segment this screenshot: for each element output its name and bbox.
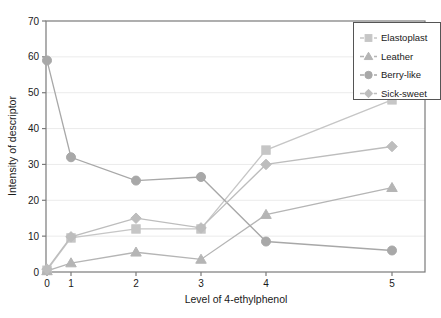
marker-circle (132, 176, 141, 185)
chart-legend[interactable]: ElastoplastLeatherBerry-likeSick-sweet (354, 23, 441, 100)
y-tick-label: 20 (28, 195, 40, 206)
marker-circle (43, 56, 52, 65)
y-tick-label: 10 (28, 231, 40, 242)
legend-label: Elastoplast (381, 32, 428, 43)
y-tick-label: 70 (28, 16, 40, 27)
legend-label: Leather (381, 51, 413, 62)
y-tick-label: 0 (33, 267, 39, 278)
y-tick-label: 40 (28, 123, 40, 134)
marker-square (365, 35, 372, 42)
y-tick-label: 60 (28, 51, 40, 62)
y-axis: 010203040506070 (28, 16, 46, 278)
x-tick-label: 0 (44, 278, 50, 289)
y-tick-label: 30 (28, 159, 40, 170)
marker-square (132, 225, 140, 233)
marker-circle (262, 237, 271, 246)
y-tick-label: 50 (28, 87, 40, 98)
x-tick-label: 2 (133, 278, 139, 289)
marker-circle (197, 172, 206, 181)
chart-figure: 010203040506070 012345 Intensity of desc… (0, 0, 441, 318)
y-axis-title: Intensity of descriptor (6, 96, 18, 196)
x-tick-label: 1 (68, 278, 74, 289)
marker-circle (67, 153, 76, 162)
x-axis-title: Level of 4-ethylphenol (185, 293, 288, 305)
marker-square (262, 146, 270, 154)
marker-circle (365, 71, 372, 78)
legend-item-berry-like[interactable]: Berry-like (360, 69, 421, 80)
legend-label: Sick-sweet (381, 88, 427, 99)
x-tick-label: 4 (263, 278, 269, 289)
x-tick-label: 3 (198, 278, 204, 289)
x-tick-label: 5 (389, 278, 395, 289)
marker-circle (388, 246, 397, 255)
line-chart: 010203040506070 012345 Intensity of desc… (0, 0, 441, 318)
legend-label: Berry-like (381, 69, 421, 80)
x-axis: 012345 (44, 272, 395, 289)
